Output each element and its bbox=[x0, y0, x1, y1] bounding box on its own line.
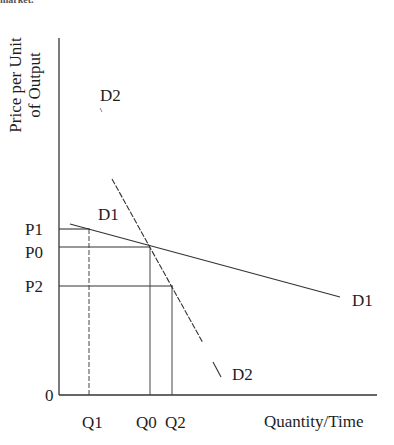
q1-label: Q1 bbox=[82, 414, 103, 431]
y-axis-label: Price per Unit of Output bbox=[6, 5, 44, 165]
demand-elasticity-diagram bbox=[0, 0, 394, 445]
y-axis-label-line1: Price per Unit bbox=[6, 5, 25, 165]
d1-label-left: D1 bbox=[98, 206, 119, 223]
q2-label: Q2 bbox=[165, 414, 186, 431]
d2-curve bbox=[112, 179, 203, 343]
p0-label: P0 bbox=[25, 244, 43, 261]
d1-label-right: D1 bbox=[352, 292, 373, 309]
d2-label-bottom: D2 bbox=[232, 366, 253, 383]
x-axis-label: Quantity/Time bbox=[264, 413, 364, 430]
d2-curve-tick bbox=[100, 108, 102, 112]
y-axis-label-line2: of Output bbox=[25, 5, 44, 165]
q0-label: Q0 bbox=[136, 414, 157, 431]
d2-label-top: D2 bbox=[100, 87, 121, 104]
p2-label: P2 bbox=[25, 278, 43, 295]
origin-label: 0 bbox=[45, 387, 54, 404]
d2-curve-fragment bbox=[213, 362, 221, 377]
p1-label: P1 bbox=[25, 221, 43, 238]
